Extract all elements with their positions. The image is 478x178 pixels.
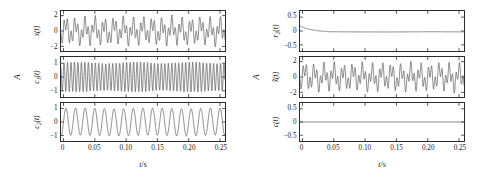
x-tick-label: 0.10	[120, 144, 133, 152]
waveform-path	[300, 61, 464, 92]
y-tick-label: 2	[54, 11, 58, 19]
plot-frame	[299, 10, 465, 52]
plot-frame	[299, 102, 465, 142]
y-axis-series-label: c(t)	[271, 109, 281, 135]
plot-frame	[60, 10, 226, 52]
plot-frame	[299, 56, 465, 98]
panel-group-left: 20−2x(t)10−1c1(t)10−1c2(t)00.050.100.150…	[0, 0, 239, 178]
x-tick-label: 0.20	[422, 144, 435, 152]
x-tick-label: 0.05	[88, 144, 101, 152]
y-tick-label: 0	[293, 118, 297, 126]
y-tick-label: −0.5	[283, 42, 296, 50]
y-tick-label: 0	[293, 27, 297, 35]
x-axis-label: t/s	[378, 160, 386, 169]
x-tick-label: 0.05	[327, 144, 340, 152]
waveform-path	[61, 15, 225, 47]
subplot-r2t: 0.50−0.5r2(t)	[299, 10, 465, 52]
y-tick-label: 0	[54, 27, 58, 35]
subplot-xt: 20−2x̃(t)	[299, 56, 465, 98]
y-tick-label: 1	[54, 104, 58, 112]
subplot-c2t: 10−1c2(t)00.050.100.150.200.25	[60, 102, 226, 142]
amplitude-axis-label: A	[250, 70, 262, 84]
waveform-path	[61, 62, 225, 92]
panel-group-right: 0.50−0.5r2(t)20−2x̃(t)0.50−0.5c(t)00.050…	[239, 0, 478, 178]
y-tick-label: 0.5	[288, 104, 297, 112]
signal-decomposition-figure: 20−2x(t)10−1c1(t)10−1c2(t)00.050.100.150…	[0, 0, 478, 178]
waveform-path	[300, 26, 464, 32]
y-tick-label: −0.5	[283, 132, 296, 140]
y-tick-label: 0	[54, 73, 58, 81]
subplot-c1t: 10−1c1(t)	[60, 56, 226, 98]
y-tick-label: 1	[54, 59, 58, 67]
y-tick-label: −1	[50, 132, 58, 140]
y-axis-series-label: r2(t)	[271, 18, 281, 44]
y-tick-label: −2	[289, 89, 297, 97]
plot-frame	[60, 56, 226, 98]
x-tick-label: 0.25	[215, 144, 228, 152]
y-tick-label: 0	[293, 73, 297, 81]
y-tick-label: 0.5	[288, 12, 297, 20]
subplot-xt: 20−2x(t)	[60, 10, 226, 52]
x-tick-label: 0.10	[359, 144, 372, 152]
x-tick-label: 0.25	[454, 144, 467, 152]
y-tick-label: 0	[54, 118, 58, 126]
x-axis-label: t/s	[139, 160, 147, 169]
y-tick-label: −1	[50, 87, 58, 95]
y-axis-series-label: c2(t)	[32, 109, 42, 135]
y-axis-series-label: c1(t)	[32, 64, 42, 90]
y-tick-label: 2	[293, 57, 297, 65]
amplitude-axis-label: A	[11, 70, 23, 84]
y-axis-series-label: x̃(t)	[271, 64, 281, 90]
x-tick-label: 0.15	[151, 144, 164, 152]
y-tick-label: −2	[50, 43, 58, 51]
plot-frame	[60, 102, 226, 142]
y-axis-series-label: x(t)	[32, 18, 42, 44]
x-tick-label: 0	[61, 144, 65, 152]
x-tick-label: 0	[300, 144, 304, 152]
subplot-ct: 0.50−0.5c(t)00.050.100.150.200.25	[299, 102, 465, 142]
waveform-path	[61, 108, 225, 136]
x-tick-label: 0.15	[390, 144, 403, 152]
x-tick-label: 0.20	[183, 144, 196, 152]
